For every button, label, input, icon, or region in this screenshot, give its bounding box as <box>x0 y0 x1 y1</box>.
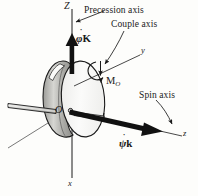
precession-vector-label: φ˙K <box>76 33 91 44</box>
axis-label-small-z: z <box>183 129 186 138</box>
spin-axis-label: Spin axis <box>139 91 175 101</box>
moment-vector-label: MO <box>106 76 120 88</box>
axis-label-big-z: Z <box>64 1 70 11</box>
precession-axis-label: Precession axis <box>84 6 144 16</box>
phi-dot-accent: ˙ <box>80 29 83 37</box>
psi-dot-accent: ˙ <box>123 134 126 142</box>
spin-vector-label: ψ˙k <box>119 138 132 149</box>
couple-axis-label: Couple axis <box>111 20 157 30</box>
couple-leader-line <box>105 31 124 64</box>
spin-leader-line <box>156 100 172 124</box>
z-axis-line <box>160 131 182 136</box>
unit-vector-k: k <box>126 137 132 149</box>
unit-vector-K: K <box>82 32 91 44</box>
disk-leader-line <box>8 123 48 148</box>
axis-label-small-y: y <box>141 46 145 55</box>
moment-symbol-M: M <box>106 75 115 86</box>
gyroscope-diagram: Z Precession axis Couple axis Spin axis … <box>0 0 198 196</box>
axis-label-small-x: x <box>68 179 72 188</box>
origin-label: O <box>55 105 62 115</box>
moment-subscript-O: O <box>115 80 120 88</box>
flywheel-disk <box>43 59 108 138</box>
